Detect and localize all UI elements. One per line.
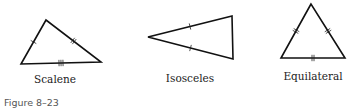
equilateral-triangle — [281, 4, 345, 61]
isosceles-triangle — [148, 16, 233, 59]
scalene-triangle — [21, 20, 101, 66]
isosceles-label: Isosceles — [166, 72, 214, 84]
triangle-types-figure: Scalene Isosceles Equilateral Figure 8–2… — [0, 0, 360, 112]
equilateral-outline — [281, 4, 345, 58]
figure-caption: Figure 8–23 — [4, 97, 59, 108]
equilateral-label: Equilateral — [283, 70, 343, 82]
isosceles-outline — [148, 16, 233, 59]
scalene-label: Scalene — [34, 73, 76, 85]
